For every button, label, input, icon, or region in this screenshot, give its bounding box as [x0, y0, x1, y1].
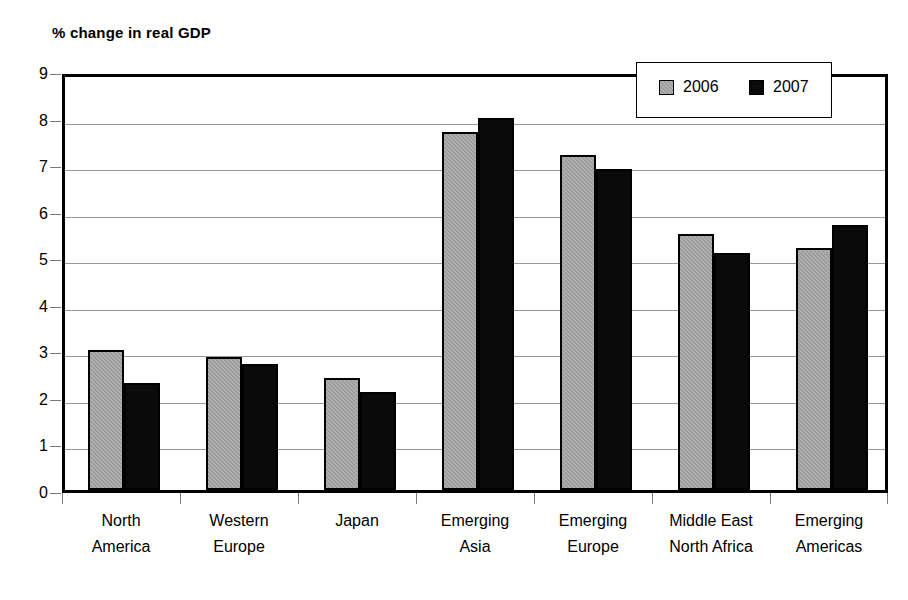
- bar-2007: [832, 225, 868, 490]
- bar-group: [419, 77, 537, 490]
- page-title: % change in real GDP: [52, 24, 211, 41]
- y-tick-mark-2: [50, 400, 61, 401]
- bar-group: [655, 77, 773, 490]
- y-tick-mark-7: [50, 167, 61, 168]
- bar-2007: [478, 118, 514, 490]
- x-category-label: EmergingAsia: [408, 508, 542, 560]
- x-category-label-line: Emerging: [526, 508, 660, 534]
- bar-2007: [242, 364, 278, 490]
- y-tick-mark-3: [50, 353, 61, 354]
- x-category-label: EmergingEurope: [526, 508, 660, 560]
- bar-2007: [596, 169, 632, 490]
- plot-inner: [65, 77, 885, 490]
- x-category-label-line: North: [54, 508, 188, 534]
- x-tick-mark-5: [652, 493, 653, 504]
- bar-2006: [796, 248, 832, 490]
- x-category-label: NorthAmerica: [54, 508, 188, 560]
- x-category-label-line: Europe: [172, 534, 306, 560]
- y-tick-mark-9: [50, 74, 61, 75]
- black-swatch-icon: [749, 80, 764, 95]
- x-category-label: WesternEurope: [172, 508, 306, 560]
- x-tick-mark-7: [887, 493, 888, 504]
- bar-group: [773, 77, 891, 490]
- bar-2007: [714, 253, 750, 490]
- x-category-label-line: Emerging: [762, 508, 896, 534]
- x-category-label-line: America: [54, 534, 188, 560]
- y-tick-mark-1: [50, 446, 61, 447]
- x-tick-mark-2: [298, 493, 299, 504]
- x-tick-mark-0: [62, 493, 63, 504]
- gray-swatch-icon: [659, 80, 674, 95]
- legend-label: 2006: [683, 79, 719, 95]
- y-tick-mark-5: [50, 260, 61, 261]
- legend-label: 2007: [773, 79, 809, 95]
- legend-entry-2007: 2007: [749, 79, 809, 95]
- legend-entry-2006: 2006: [659, 79, 719, 95]
- x-category-label: Japan: [290, 508, 424, 534]
- y-tick-mark-0: [50, 493, 61, 494]
- bar-2006: [560, 155, 596, 490]
- x-tick-mark-1: [180, 493, 181, 504]
- bar-2007: [360, 392, 396, 490]
- bar-2006: [324, 378, 360, 490]
- bar-group: [301, 77, 419, 490]
- x-category-label-line: Emerging: [408, 508, 542, 534]
- x-category-label-line: Japan: [290, 508, 424, 534]
- x-category-label-line: Americas: [762, 534, 896, 560]
- x-axis-labels: NorthAmericaWesternEuropeJapanEmergingAs…: [62, 508, 888, 588]
- bar-group: [183, 77, 301, 490]
- bar-2006: [678, 234, 714, 490]
- bar-2006: [442, 132, 478, 490]
- y-axis-tick-marks: [0, 74, 62, 493]
- x-tick-mark-3: [416, 493, 417, 504]
- x-category-label-line: Asia: [408, 534, 542, 560]
- bar-group: [537, 77, 655, 490]
- x-category-label: Middle EastNorth Africa: [644, 508, 778, 560]
- y-tick-mark-6: [50, 214, 61, 215]
- x-category-label-line: Middle East: [644, 508, 778, 534]
- x-tick-mark-6: [770, 493, 771, 504]
- y-tick-mark-8: [50, 121, 61, 122]
- bar-group: [65, 77, 183, 490]
- x-category-label-line: North Africa: [644, 534, 778, 560]
- bar-2007: [124, 383, 160, 490]
- bar-2006: [206, 357, 242, 490]
- bar-2006: [88, 350, 124, 490]
- x-category-label: EmergingAmericas: [762, 508, 896, 560]
- x-category-label-line: Europe: [526, 534, 660, 560]
- y-tick-mark-4: [50, 307, 61, 308]
- chart-page: % change in real GDP 0123456789 NorthAme…: [0, 0, 908, 600]
- x-tick-mark-4: [534, 493, 535, 504]
- plot-area: [62, 74, 888, 493]
- x-axis-tick-marks: [62, 493, 888, 505]
- x-category-label-line: Western: [172, 508, 306, 534]
- legend: 20062007: [636, 62, 832, 118]
